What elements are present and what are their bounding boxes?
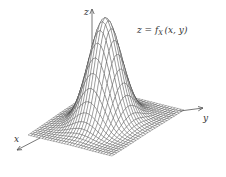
surface-mesh — [28, 18, 184, 157]
x-axis — [17, 138, 40, 150]
formula-equals: = — [142, 25, 155, 35]
y-axis — [180, 108, 203, 111]
x-axis-label: x — [14, 134, 19, 144]
gaussian-surface-figure: z x y z = fX(x, y) — [0, 0, 226, 177]
z-axis-label: z — [83, 7, 89, 17]
formula-args: (x, y) — [165, 25, 188, 35]
formula-subscript: X — [157, 29, 163, 37]
y-axis-label: y — [202, 113, 209, 123]
formula-label: z = fX(x, y) — [136, 25, 188, 37]
